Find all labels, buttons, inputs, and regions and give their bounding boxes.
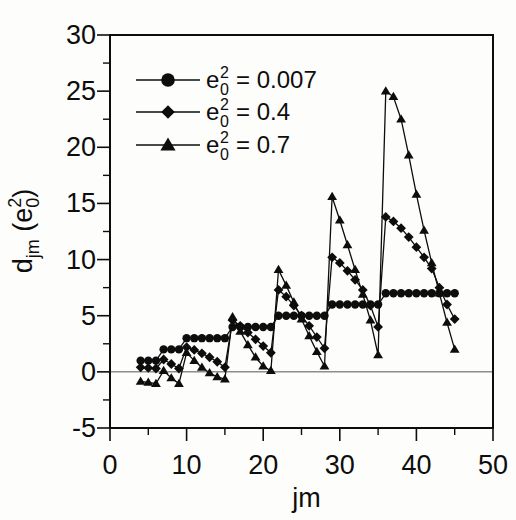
circle-marker <box>251 323 259 331</box>
circle-marker <box>167 345 175 353</box>
legend-label-value: = 0.7 <box>236 131 290 158</box>
triangle-marker <box>266 366 276 374</box>
circle-marker <box>343 300 351 308</box>
plot-frame <box>110 35 493 428</box>
triangle-marker <box>335 215 345 223</box>
legend-label-sup: 2 <box>220 129 229 146</box>
diamond-marker <box>320 343 330 353</box>
legend-label-sub: 0 <box>220 113 229 130</box>
triangle-marker <box>304 331 314 339</box>
circle-marker <box>389 289 397 297</box>
triangle-marker <box>389 92 399 100</box>
y-tick-label: 30 <box>66 20 96 50</box>
circle-marker <box>152 356 160 364</box>
x-tick-label: 20 <box>248 450 278 480</box>
circle-marker <box>259 323 267 331</box>
triangle-marker <box>373 350 383 358</box>
triangle-marker <box>243 340 253 348</box>
legend-label: e <box>206 98 219 125</box>
circle-marker <box>282 312 290 320</box>
circle-marker <box>420 289 428 297</box>
triangle-marker <box>419 225 429 233</box>
triangle-marker <box>427 258 437 266</box>
chart-svg: 01020304050302520151050-5e20= 0.007e20= … <box>0 0 516 520</box>
triangle-marker <box>320 361 330 369</box>
legend-label: e <box>206 66 219 93</box>
triangle-marker <box>274 265 284 273</box>
triangle-marker <box>396 114 406 122</box>
x-tick-label: 30 <box>325 450 355 480</box>
y-tick-label: 15 <box>66 188 96 218</box>
triangle-marker <box>381 86 391 94</box>
triangle-marker <box>343 240 353 248</box>
y-tick-label: -5 <box>72 413 96 443</box>
circle-marker <box>397 289 405 297</box>
circle-marker <box>182 334 190 342</box>
circle-marker <box>328 300 336 308</box>
circle-marker <box>451 289 459 297</box>
triangle-marker <box>136 377 146 385</box>
triangle-marker <box>450 345 460 353</box>
svg-text:djm (e20): djm (e20) <box>5 189 43 274</box>
x-tick-label: 50 <box>478 450 508 480</box>
x-axis-label: jm <box>291 483 321 513</box>
circle-marker <box>336 300 344 308</box>
triangle-marker <box>281 280 291 288</box>
legend-label: e <box>206 131 219 158</box>
triangle-marker <box>350 265 360 273</box>
legend-label-sup: 2 <box>220 96 229 113</box>
triangle-marker <box>404 150 414 158</box>
diamond-marker <box>212 357 222 367</box>
triangle-marker <box>327 192 337 200</box>
triangle-marker <box>412 190 422 198</box>
x-tick-label: 10 <box>172 450 202 480</box>
legend-label-sub: 0 <box>220 146 229 163</box>
triangle-marker <box>174 379 184 387</box>
circle-marker <box>374 300 382 308</box>
circle-marker <box>161 73 175 87</box>
circle-marker <box>190 334 198 342</box>
circle-marker <box>213 334 221 342</box>
circle-marker <box>221 334 229 342</box>
legend-label-value: = 0.4 <box>236 98 290 125</box>
diamond-marker <box>450 314 460 324</box>
circle-marker <box>412 289 420 297</box>
circle-marker <box>382 289 390 297</box>
diamond-marker <box>312 332 322 342</box>
circle-marker <box>175 345 183 353</box>
circle-marker <box>405 289 413 297</box>
diamond-marker <box>166 359 176 369</box>
y-tick-label: 10 <box>66 245 96 275</box>
circle-marker <box>428 289 436 297</box>
diamond-marker <box>220 362 230 372</box>
y-axis-label: djm (e20) <box>5 189 43 274</box>
triangle-marker <box>251 352 261 360</box>
y-tick-label: 20 <box>66 132 96 162</box>
y-tick-label: 5 <box>81 301 96 331</box>
circle-marker <box>198 334 206 342</box>
diamond-marker <box>419 252 429 262</box>
triangle-marker <box>160 137 175 150</box>
circle-marker <box>159 345 167 353</box>
x-tick-label: 0 <box>102 450 117 480</box>
circle-marker <box>313 312 321 320</box>
y-tick-label: 0 <box>81 357 96 387</box>
circle-marker <box>443 289 451 297</box>
triangle-marker <box>159 366 169 374</box>
circle-marker <box>205 334 213 342</box>
circle-marker <box>351 300 359 308</box>
y-tick-label: 25 <box>66 76 96 106</box>
legend-label-value: = 0.007 <box>236 66 317 93</box>
x-tick-label: 40 <box>401 450 431 480</box>
scatter-line-figure: 01020304050302520151050-5e20= 0.007e20= … <box>0 0 516 520</box>
triangle-marker <box>228 312 238 320</box>
legend-label-sup: 2 <box>220 64 229 81</box>
diamond-marker <box>161 105 175 119</box>
